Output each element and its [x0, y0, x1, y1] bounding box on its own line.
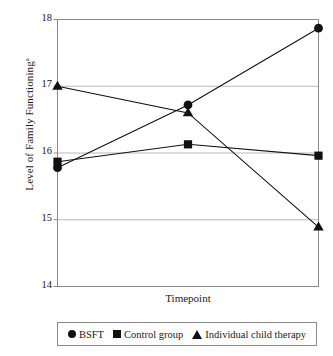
legend-label-individual-child-therapy: Individual child therapy [205, 329, 306, 340]
legend-item-bsft: BSFT [68, 329, 104, 340]
legend-label-bsft: BSFT [79, 329, 104, 340]
data-point-1-1 [184, 140, 192, 148]
series-lines [58, 28, 319, 227]
circle-marker-icon [68, 330, 76, 338]
x-axis-title: Timepoint [57, 292, 319, 304]
chart-figure: Level of Family Functioninga 18 17 16 15… [0, 0, 333, 356]
legend-label-control-group: Control group [124, 329, 183, 340]
data-point-2-2 [313, 222, 323, 231]
legend-item-individual-child-therapy: Individual child therapy [192, 329, 306, 340]
data-point-1-0 [53, 158, 61, 166]
chart-legend: BSFT Control group Individual child ther… [57, 322, 317, 346]
data-point-2-0 [52, 81, 62, 90]
y-axis-ticks [54, 20, 58, 287]
square-marker-icon [113, 330, 121, 338]
triangle-marker-icon [192, 330, 202, 339]
data-point-0-2 [314, 24, 323, 33]
gridlines [58, 20, 319, 287]
series-markers [52, 24, 323, 231]
legend-item-control-group: Control group [113, 329, 183, 340]
data-point-1-2 [314, 152, 322, 160]
